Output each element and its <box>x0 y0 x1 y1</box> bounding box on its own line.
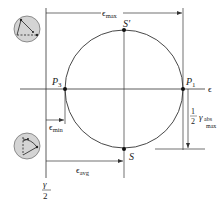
label-s-prime: S′ <box>123 18 131 29</box>
svg-text:γ: γ <box>199 112 203 122</box>
svg-text:1: 1 <box>191 107 195 116</box>
epsilon-axis-label: ϵ <box>208 84 212 94</box>
gamma-axis-label-num: γ <box>43 179 47 189</box>
gamma-axis-label-den: 2 <box>43 191 48 201</box>
svg-text:abs: abs <box>204 116 213 122</box>
point-p3 <box>63 87 67 91</box>
inset-element-bottom <box>14 133 40 159</box>
svg-text:2: 2 <box>191 117 195 126</box>
eps-avg-label: ϵavg <box>76 165 90 176</box>
mohr-circle-diagram: P3 P1 S′ S ϵ γ 2 ϵmax ϵmin ϵavg 1 2 γ ab… <box>0 0 224 204</box>
inset-element-top <box>14 16 40 42</box>
eps-min-label: ϵmin <box>49 122 64 133</box>
label-s: S <box>129 151 134 162</box>
label-p3: P3 <box>51 76 62 89</box>
point-p1 <box>181 87 185 91</box>
label-p1: P1 <box>185 76 196 89</box>
half-gamma-abs-max-label: 1 2 γ abs max <box>190 107 216 129</box>
svg-text:max: max <box>206 123 216 129</box>
point-s <box>122 147 126 151</box>
